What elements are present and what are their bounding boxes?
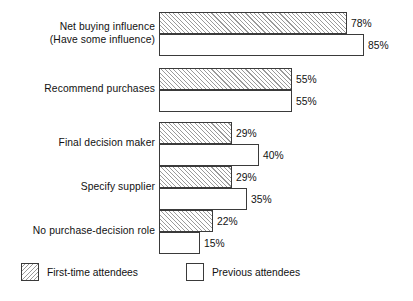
bar-previous-attendees bbox=[159, 34, 364, 56]
category-label: Specify supplier bbox=[81, 181, 155, 194]
bar-first-time-attendees bbox=[159, 166, 232, 188]
bar-value-label: 85% bbox=[368, 40, 389, 51]
legend-item-first-time-attendees: First-time attendees bbox=[21, 263, 138, 281]
bar-value-label: 55% bbox=[296, 96, 317, 107]
hatched-square-icon bbox=[21, 263, 39, 281]
open-square-icon bbox=[186, 263, 204, 281]
category-label: Net buying influence (Have some influenc… bbox=[50, 21, 155, 46]
category-label: No purchase-decision role bbox=[33, 225, 155, 238]
bar-value-label: 78% bbox=[351, 18, 372, 29]
category-label: Recommend purchases bbox=[44, 83, 155, 96]
category-label: Final decision maker bbox=[59, 137, 156, 150]
bar-first-time-attendees bbox=[159, 122, 232, 144]
bar-previous-attendees bbox=[159, 232, 200, 254]
legend-label: First-time attendees bbox=[47, 267, 138, 278]
chart-legend: First-time attendees Previous attendees bbox=[0, 259, 413, 293]
bar-first-time-attendees bbox=[159, 12, 347, 34]
bar-previous-attendees bbox=[159, 90, 292, 112]
bar-value-label: 22% bbox=[217, 216, 238, 227]
bar-first-time-attendees bbox=[159, 210, 213, 232]
bar-value-label: 35% bbox=[251, 194, 272, 205]
bar-value-label: 55% bbox=[296, 74, 317, 85]
bar-chart: Net buying influence (Have some influenc… bbox=[0, 0, 413, 301]
bar-value-label: 15% bbox=[204, 238, 225, 249]
bar-previous-attendees bbox=[159, 188, 247, 210]
bar-previous-attendees bbox=[159, 144, 259, 166]
legend-label: Previous attendees bbox=[212, 267, 300, 278]
legend-item-previous-attendees: Previous attendees bbox=[186, 263, 300, 281]
bar-first-time-attendees bbox=[159, 68, 292, 90]
bar-value-label: 40% bbox=[263, 150, 284, 161]
bar-value-label: 29% bbox=[236, 128, 257, 139]
bar-value-label: 29% bbox=[236, 172, 257, 183]
